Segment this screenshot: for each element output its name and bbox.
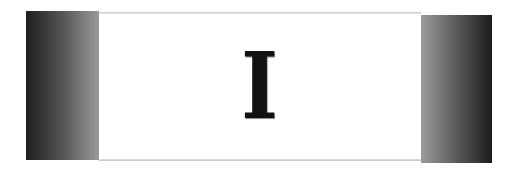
bottom-border (99, 159, 421, 161)
center-panel: I (99, 14, 421, 159)
right-gradient-panel (421, 15, 492, 163)
left-gradient-panel (26, 11, 99, 160)
roman-numeral-heading: I (242, 40, 279, 132)
